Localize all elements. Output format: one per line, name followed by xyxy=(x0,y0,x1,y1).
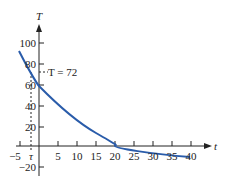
x-tick-10: 10 xyxy=(72,150,84,162)
y-ticks xyxy=(39,43,44,167)
y-axis-arrow-icon xyxy=(36,24,42,32)
temperature-curve xyxy=(19,51,190,157)
y-tick-80: 80 xyxy=(25,58,37,70)
x-tick-15: 15 xyxy=(91,150,103,162)
y-tick-20: 20 xyxy=(25,121,37,133)
x-tick-neg5: −5 xyxy=(9,150,21,162)
y-tick-60: 60 xyxy=(25,79,37,91)
x-tick-40: 40 xyxy=(186,150,198,162)
x-tick-30: 30 xyxy=(148,150,160,162)
y-tick-100: 100 xyxy=(20,37,37,49)
x-tick-5: 5 xyxy=(55,150,61,162)
x-tick-20: 20 xyxy=(110,150,122,162)
chart: T t T = 72 100 80 60 40 20 −20 −5 τ 5 10… xyxy=(0,0,226,184)
x-ticks xyxy=(20,141,191,146)
x-axis-arrow-icon xyxy=(204,143,212,149)
x-tick-25: 25 xyxy=(129,150,141,162)
chart-canvas: T t T = 72 100 80 60 40 20 −20 −5 τ 5 10… xyxy=(0,0,226,184)
x-axis-label: t xyxy=(214,140,218,152)
y-axis-label: T xyxy=(36,10,43,22)
x-tick-35: 35 xyxy=(167,150,179,162)
y-tick-neg20: −20 xyxy=(19,161,37,173)
y-tick-40: 40 xyxy=(25,100,37,112)
annotation-t72: T = 72 xyxy=(48,66,77,78)
